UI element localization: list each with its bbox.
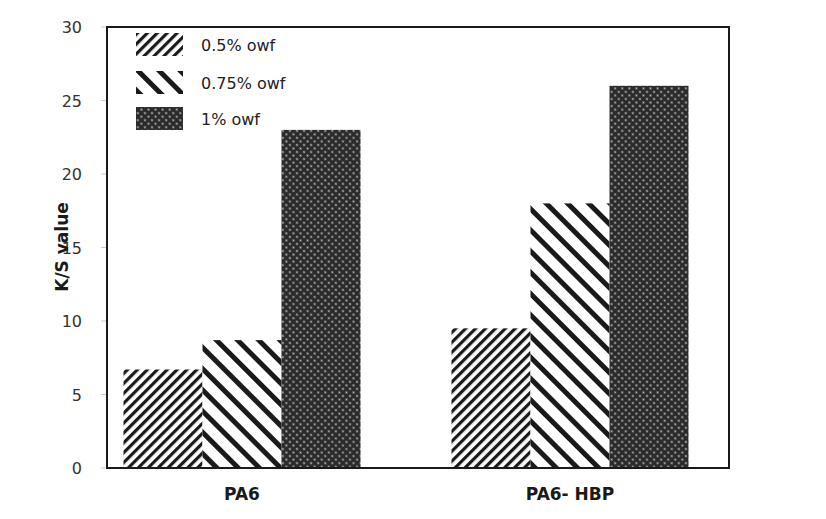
bar-pa6-hbp-2 xyxy=(531,203,610,468)
x-category-label: PA6- HBP xyxy=(526,484,615,504)
y-tick-label: 5 xyxy=(72,386,82,405)
legend-label: 1% owf xyxy=(201,110,260,129)
bar-chart: 051015202530 K/S value PA6PA6- HBP 0.5% … xyxy=(0,0,826,519)
bar-pa6-2 xyxy=(203,340,282,468)
bar-pa6-3 xyxy=(282,130,361,468)
legend: 0.5% owf0.75% owf1% owf xyxy=(136,33,286,130)
bar-series xyxy=(124,86,689,468)
legend-swatch xyxy=(136,33,183,56)
legend-swatch xyxy=(136,71,183,94)
bar-pa6-1 xyxy=(124,370,203,468)
y-tick-label: 20 xyxy=(62,165,82,184)
y-tick-label: 30 xyxy=(62,18,82,37)
y-axis-label: K/S value xyxy=(52,202,72,292)
x-category-label: PA6 xyxy=(224,484,260,504)
chart-canvas: 051015202530 K/S value PA6PA6- HBP 0.5% … xyxy=(0,0,826,519)
bar-pa6-hbp-3 xyxy=(610,86,689,468)
x-axis-category-labels: PA6PA6- HBP xyxy=(224,484,614,504)
legend-label: 0.75% owf xyxy=(201,74,286,93)
y-tick-label: 10 xyxy=(62,312,82,331)
legend-label: 0.5% owf xyxy=(201,36,276,55)
y-tick-label: 0 xyxy=(72,459,82,478)
legend-swatch xyxy=(136,107,183,130)
bar-pa6-hbp-1 xyxy=(452,328,531,468)
y-tick-label: 25 xyxy=(62,92,82,111)
